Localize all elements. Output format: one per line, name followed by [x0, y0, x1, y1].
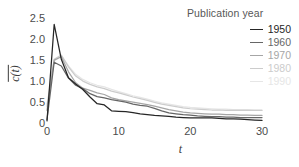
- y-axis-label: c(t): [4, 56, 26, 90]
- legend-swatch-icon: [250, 81, 263, 82]
- y-axis-label-text: c(t): [8, 65, 23, 82]
- y-tick-label: 2.0: [2, 34, 45, 45]
- legend-item-label: 1960: [268, 37, 291, 48]
- legend-items: 19501960197019801990: [187, 23, 291, 88]
- legend-item-label: 1990: [268, 76, 291, 87]
- legend-swatch-icon: [250, 42, 263, 43]
- x-tick-label: 0: [32, 126, 62, 137]
- y-tick-label: 2.5: [2, 13, 45, 24]
- citation-decay-chart: 00.51.01.52.02.5 c(t) 0102030 t Publicat…: [0, 0, 299, 167]
- legend-item-1970[interactable]: 1970: [187, 49, 291, 62]
- legend-item-1950[interactable]: 1950: [187, 23, 291, 36]
- legend-item-label: 1980: [268, 63, 291, 74]
- x-tick-label: 10: [104, 126, 134, 137]
- legend-swatch-icon: [250, 29, 263, 30]
- legend: Publication year 19501960197019801990: [187, 8, 291, 88]
- legend-item-1990[interactable]: 1990: [187, 75, 291, 88]
- x-axis-ticks: 0102030: [0, 126, 299, 140]
- legend-item-1960[interactable]: 1960: [187, 36, 291, 49]
- x-axis-label: t: [0, 142, 299, 157]
- x-tick-label: 30: [247, 126, 277, 137]
- legend-item-label: 1970: [268, 50, 291, 61]
- legend-swatch-icon: [250, 55, 263, 56]
- legend-title: Publication year: [187, 8, 291, 20]
- legend-swatch-icon: [250, 68, 263, 69]
- legend-item-label: 1950: [268, 24, 291, 35]
- y-tick-label: 0.5: [2, 97, 45, 108]
- legend-item-1980[interactable]: 1980: [187, 62, 291, 75]
- x-axis-label-text: t: [117, 142, 182, 156]
- x-tick-label: 20: [175, 126, 205, 137]
